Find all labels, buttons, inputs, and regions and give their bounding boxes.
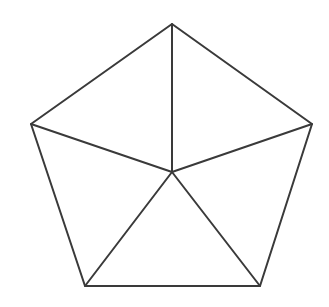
figure-canvas: Pentagon bbox=[0, 0, 329, 307]
pentagon-diagram bbox=[0, 0, 329, 307]
diagram-background bbox=[0, 0, 329, 307]
